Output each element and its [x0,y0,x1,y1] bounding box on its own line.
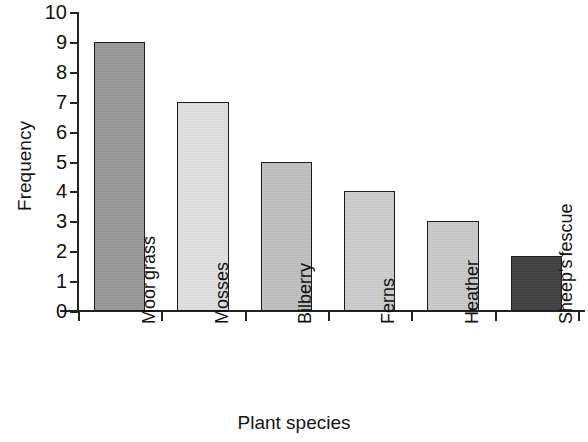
x-axis-tick-mark [328,311,330,321]
y-axis-tick-mark [70,311,78,313]
y-axis-tick-label: 5 [56,152,67,172]
y-axis-tick-label: 8 [56,62,67,82]
y-axis-tick-mark [70,221,78,223]
x-axis-category-label-line: grass [140,236,159,280]
x-axis-tick-mark [495,311,497,321]
y-axis-tick-mark [70,42,78,44]
y-axis-tick-mark [70,102,78,104]
y-axis-title: Frequency [14,86,36,246]
y-axis-tick-mark [70,12,78,14]
x-axis-title: Plant species [0,412,588,434]
x-axis-category-label-line: Bilberry [296,263,315,324]
y-axis-tick-mark [70,132,78,134]
x-axis-tick-mark [161,311,163,321]
bar-chart: Frequency 012345678910 MoorgrassMossesBi… [0,0,588,442]
y-axis-tick-mark [70,191,78,193]
x-axis-tick-mark [578,311,580,321]
x-axis-tick-mark [411,311,413,321]
y-axis-tick-label: 7 [56,92,67,112]
x-axis-category-label-line: Ferns [379,278,398,324]
bar [94,42,146,311]
x-axis-tick-mark [78,311,80,321]
y-axis-tick-label: 1 [56,271,67,291]
y-axis-tick-label: 3 [56,211,67,231]
y-axis-tick-label: 6 [56,122,67,142]
bar [511,256,563,311]
x-axis-category-label-line: Mosses [213,262,232,324]
y-axis-tick-mark [70,162,78,164]
y-axis-tick-label: 9 [56,32,67,52]
x-axis-category-label-line: Heather [463,260,482,324]
y-axis-tick-mark [70,281,78,283]
x-axis-tick-mark [245,311,247,321]
y-axis-tick-label: 4 [56,181,67,201]
y-axis-tick-mark [70,251,78,253]
x-axis-category-label-line: Moor [140,283,159,324]
x-axis-category-label-line: fescue [557,203,576,256]
y-axis-tick-label: 0 [56,301,67,321]
y-axis-tick-label: 10 [45,2,67,22]
y-axis-tick-label: 2 [56,241,67,261]
y-axis-tick-mark [70,72,78,74]
x-axis-category-label-line: Sheep's [557,260,576,325]
